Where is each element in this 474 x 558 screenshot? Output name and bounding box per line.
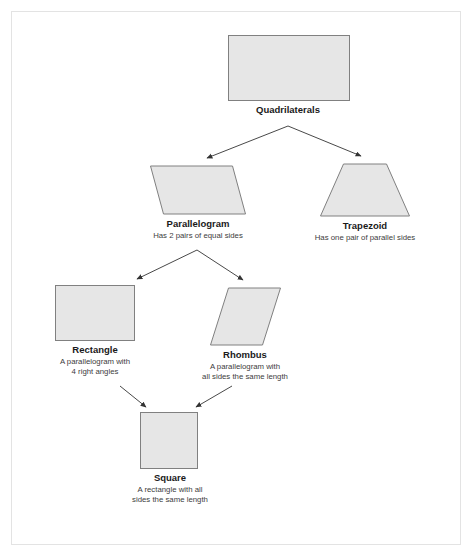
edge-parallelogram-to-rectangle xyxy=(137,250,197,279)
edge-rhombus-to-square xyxy=(196,386,232,407)
node-label-parallelogram: Parallelogram xyxy=(108,218,288,230)
node-desc-parallelogram: Has 2 pairs of equal sides xyxy=(108,231,288,241)
shape-rhombus xyxy=(155,287,335,346)
node-rhombus: Rhombus A parallelogram with all sides t… xyxy=(155,287,335,382)
shape-quadrilaterals-rectangle xyxy=(198,35,378,101)
node-label-square: Square xyxy=(80,472,260,484)
node-quadrilaterals: Quadrilaterals xyxy=(198,35,378,116)
edge-rectangle-to-square xyxy=(120,386,146,407)
node-label-rhombus: Rhombus xyxy=(155,349,335,361)
node-desc-rhombus-line1: A parallelogram with xyxy=(155,362,335,372)
edge-parallelogram-to-rhombus xyxy=(197,250,243,280)
node-label-quadrilaterals: Quadrilaterals xyxy=(198,104,378,116)
shape-parallelogram xyxy=(108,165,288,215)
node-desc-square-line2: sides the same length xyxy=(80,495,260,505)
edge-quadrilaterals-to-parallelogram xyxy=(207,126,288,158)
node-parallelogram: Parallelogram Has 2 pairs of equal sides xyxy=(108,165,288,241)
node-square: Square A rectangle with all sides the sa… xyxy=(80,412,260,505)
node-desc-rhombus-line2: all sides the same length xyxy=(155,372,335,382)
shape-trapezoid xyxy=(275,163,455,217)
node-trapezoid: Trapezoid Has one pair of parallel sides xyxy=(275,163,455,243)
node-desc-square-line1: A rectangle with all xyxy=(80,485,260,495)
shape-square xyxy=(80,412,260,469)
node-desc-trapezoid: Has one pair of parallel sides xyxy=(275,233,455,243)
edge-quadrilaterals-to-trapezoid xyxy=(288,126,361,156)
quadrilaterals-hierarchy-diagram: Quadrilaterals Parallelogram Has 2 pairs… xyxy=(0,0,474,558)
node-label-trapezoid: Trapezoid xyxy=(275,220,455,232)
